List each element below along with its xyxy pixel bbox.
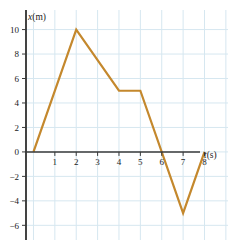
x-tick-label: 4 <box>117 157 122 167</box>
y-tick-label: 10 <box>10 25 20 35</box>
y-tick-label: 8 <box>15 49 20 59</box>
y-tick-label: 4 <box>15 98 20 108</box>
x-tick-label: 2 <box>74 157 79 167</box>
x-tick-label: 3 <box>95 157 100 167</box>
position-time-chart: 12345678 −6−4−20246810 x(m) t(s) <box>0 0 236 248</box>
y-axis-title: x(m) <box>27 12 46 23</box>
x-tick-label: 1 <box>53 157 58 167</box>
y-tick-label: −4 <box>9 196 19 206</box>
y-tick-label: 0 <box>15 147 20 157</box>
y-tick-label: 6 <box>15 74 20 84</box>
x-axis-title: t(s) <box>204 150 217 161</box>
x-tick-label: 7 <box>181 157 186 167</box>
chart-canvas: 12345678 −6−4−20246810 x(m) t(s) <box>0 0 236 248</box>
chart-background <box>0 0 236 248</box>
y-tick-label: −2 <box>9 172 19 182</box>
y-tick-label: 2 <box>15 123 20 133</box>
x-tick-label: 6 <box>159 157 164 167</box>
x-tick-label: 5 <box>138 157 143 167</box>
y-tick-label: −6 <box>9 221 19 231</box>
